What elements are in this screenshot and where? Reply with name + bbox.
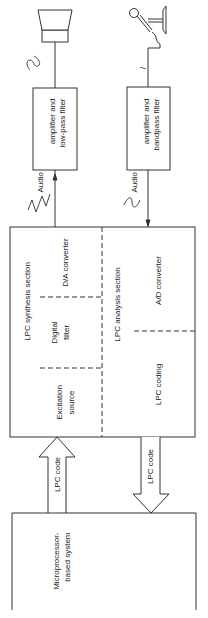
sine-wave-icon bbox=[140, 67, 146, 68]
lowpass-filter-line3: low-pass filter bbox=[58, 99, 67, 159]
speaker-icon bbox=[38, 10, 72, 42]
bandpass-filter-line3: bandpass filter bbox=[152, 99, 161, 159]
bandpass-filter-line2: amplifier and bbox=[142, 99, 151, 159]
analysis-section-title: LPC analysis section bbox=[113, 260, 122, 350]
digital-filter-line2: filter bbox=[62, 313, 71, 353]
microprocessor-line2: based system bbox=[63, 533, 72, 597]
lowpass-filter-line2: amplifier and bbox=[48, 99, 57, 159]
lpc-code-down-label: LPC code bbox=[146, 445, 155, 489]
digital-filter-line1: Digital bbox=[50, 313, 59, 353]
excitation-source-line1: Excitation bbox=[55, 378, 64, 428]
synthesis-section-title: LPC synthesis section bbox=[23, 257, 32, 347]
microphone-icon bbox=[130, 6, 167, 48]
microprocessor-line1: Microprocessor- bbox=[52, 533, 61, 597]
microprocessor-box bbox=[12, 513, 196, 610]
bandpass-filter-line1: Audio bbox=[130, 133, 139, 193]
lpc-code-up-label: LPC code bbox=[53, 453, 62, 497]
lpc-block-diagram: Audio amplifier and low-pass filter Audi… bbox=[0, 0, 208, 618]
lpc-coding-label: LPC coding bbox=[154, 355, 163, 415]
sine-wave-icon bbox=[124, 198, 140, 207]
lowpass-filter-line1: Audio bbox=[36, 133, 45, 193]
sine-wave-icon bbox=[27, 56, 40, 70]
sine-wave-icon bbox=[28, 194, 50, 212]
ad-converter-label: A/D converter bbox=[154, 251, 163, 311]
da-converter-label: D/A converter bbox=[61, 233, 70, 293]
excitation-source-line2: source bbox=[67, 378, 76, 428]
